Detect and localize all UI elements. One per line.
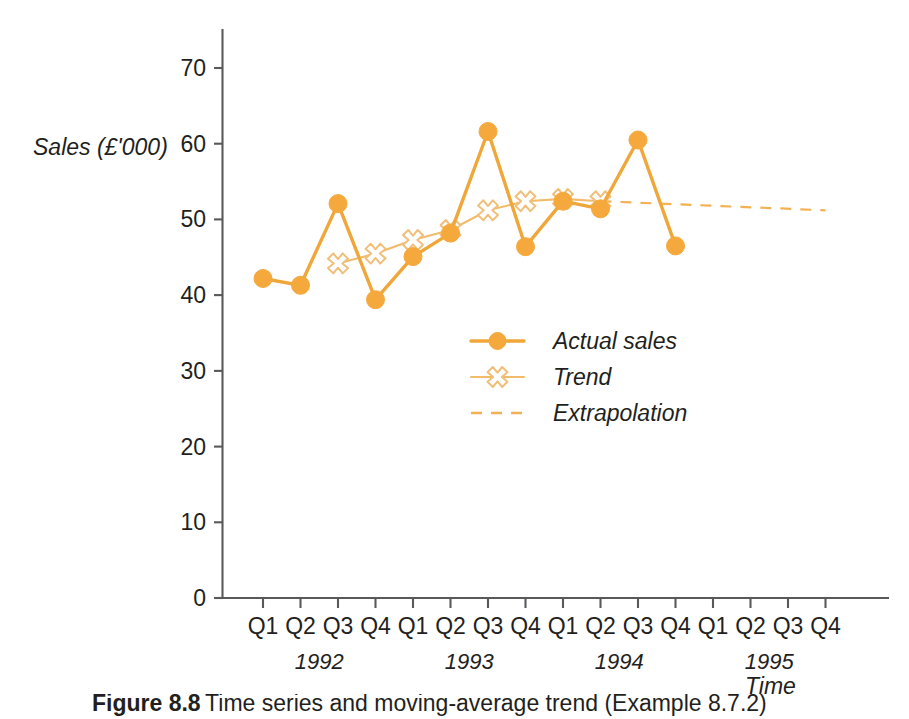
x-tick-label-1: Q2: [285, 613, 316, 639]
actual-marker-q4-1992: [367, 291, 385, 309]
x-tick-label-0: Q1: [248, 613, 279, 639]
x-tick-label-14: Q3: [773, 613, 804, 639]
y-axis-title: Sales (£'000): [33, 134, 168, 160]
extrapolation-line: [601, 201, 826, 210]
trend-marker-q4-1992: [366, 244, 386, 264]
figure-container: 0 10 20 30 40 50 60 70 Sales (£'000): [0, 0, 909, 719]
actual-marker-q3-1992: [329, 195, 347, 213]
figure-caption-label: Figure 8.8: [92, 694, 201, 716]
x-tick-label-10: Q3: [623, 613, 654, 639]
sales-trend-line-chart: 0 10 20 30 40 50 60 70 Sales (£'000): [0, 0, 909, 719]
year-label-1994: 1994: [595, 649, 644, 674]
series-actual-sales: [254, 123, 685, 309]
y-tick-label-30: 30: [180, 358, 206, 384]
x-tick-label-4: Q1: [398, 613, 429, 639]
legend-label-actual-sales: Actual sales: [551, 328, 678, 354]
actual-sales-markers: [254, 123, 685, 309]
legend-item-extrapolation[interactable]: Extrapolation: [471, 400, 687, 426]
legend-item-trend[interactable]: Trend: [471, 364, 613, 390]
legend-item-actual-sales[interactable]: Actual sales: [471, 328, 678, 354]
y-tick-label-20: 20: [180, 434, 206, 460]
actual-marker-q1-1992: [254, 270, 272, 288]
y-tick-label-60: 60: [180, 131, 206, 157]
x-tick-label-15: Q4: [810, 613, 841, 639]
x-axis-ticks: Q1 Q2 Q3 Q4 Q1 Q2 Q3 Q4 Q1 Q2 Q3 Q4 Q1 Q…: [248, 598, 841, 639]
actual-sales-line: [263, 132, 676, 300]
series-extrapolation: [601, 201, 826, 210]
figure-caption-text: Time series and moving-average trend (Ex…: [205, 694, 767, 716]
x-tick-label-12: Q1: [698, 613, 729, 639]
y-tick-label-50: 50: [180, 206, 206, 232]
y-axis-ticks: 0 10 20 30 40 50 60 70: [180, 55, 222, 611]
x-tick-label-3: Q4: [360, 613, 391, 639]
year-label-1995: 1995: [745, 649, 795, 674]
chart-legend: Actual sales Trend Extrapolation: [471, 328, 687, 426]
actual-marker-q4-1994: [667, 237, 685, 255]
trend-marker-q1-1993: [403, 230, 423, 250]
figure-caption: Figure 8.8 Time series and moving-averag…: [92, 694, 767, 717]
x-tick-label-2: Q3: [323, 613, 354, 639]
x-tick-label-7: Q4: [510, 613, 541, 639]
actual-marker-q2-1994: [592, 200, 610, 218]
y-tick-label-0: 0: [193, 585, 206, 611]
actual-marker-q4-1993: [517, 238, 535, 256]
x-tick-label-8: Q1: [548, 613, 579, 639]
actual-marker-q3-1993: [479, 123, 497, 141]
legend-swatch-actual-dot: [489, 333, 506, 350]
actual-marker-q1-1994: [554, 192, 572, 210]
x-tick-label-5: Q2: [435, 613, 466, 639]
legend-label-extrapolation: Extrapolation: [553, 400, 687, 426]
actual-marker-q2-1993: [442, 224, 460, 242]
y-tick-label-10: 10: [180, 509, 206, 535]
x-tick-label-6: Q3: [473, 613, 504, 639]
x-tick-label-11: Q4: [660, 613, 691, 639]
y-tick-label-40: 40: [180, 282, 206, 308]
trend-marker-q3-1992: [328, 253, 348, 273]
x-tick-label-9: Q2: [585, 613, 616, 639]
year-label-1992: 1992: [295, 649, 344, 674]
trend-marker-q3-1993: [478, 200, 498, 220]
y-tick-label-70: 70: [180, 55, 206, 81]
actual-marker-q1-1993: [404, 248, 422, 266]
x-tick-label-13: Q2: [735, 613, 766, 639]
actual-marker-q2-1992: [292, 276, 310, 294]
actual-marker-q3-1994: [629, 131, 647, 149]
axes-group: [223, 30, 889, 598]
year-label-1993: 1993: [445, 649, 495, 674]
x-axis-year-labels: 1992 1993 1994 1995: [295, 649, 795, 674]
figure-caption-band: Figure 8.8 Time series and moving-averag…: [0, 694, 909, 719]
legend-label-trend: Trend: [553, 364, 613, 390]
